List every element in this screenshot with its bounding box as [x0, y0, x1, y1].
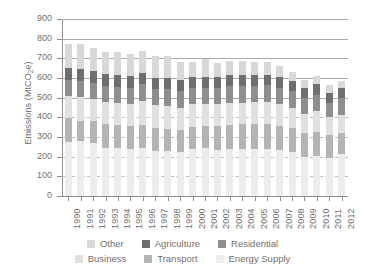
x-axis-tick-label: 1998: [172, 208, 182, 229]
legend-item-energy-supply[interactable]: Energy Supply: [216, 253, 291, 264]
x-axis-tick-mark: [280, 197, 281, 201]
x-axis-tick-mark: [193, 197, 194, 201]
x-axis-tick-label: 1993: [110, 208, 120, 229]
bar-segment-energy-supply: [251, 149, 258, 196]
y-axis-tick-mark: [57, 58, 62, 59]
bar-2008[interactable]: [289, 72, 296, 196]
bar-1992[interactable]: [90, 48, 97, 196]
bar-2011[interactable]: [326, 85, 333, 196]
x-axis-tick-label: 2005: [259, 208, 269, 229]
bar-segment-transport: [301, 133, 308, 156]
y-axis-tick-mark: [57, 78, 62, 79]
bar-segment-business: [301, 114, 308, 134]
bar-2000[interactable]: [189, 62, 196, 196]
legend-label: Agriculture: [155, 238, 200, 249]
bar-segment-agriculture: [326, 93, 333, 103]
bar-segment-residential: [90, 83, 97, 99]
legend-item-transport[interactable]: Transport: [144, 253, 197, 264]
bar-segment-transport: [239, 124, 246, 149]
x-axis-tick-mark: [292, 197, 293, 201]
legend-item-other[interactable]: Other: [87, 238, 124, 249]
bar-segment-other: [326, 85, 333, 92]
bar-1993[interactable]: [102, 52, 109, 196]
bar-segment-other: [338, 81, 345, 88]
bar-segment-other: [102, 52, 109, 74]
bar-segment-business: [276, 104, 283, 126]
legend-swatch-icon: [218, 240, 226, 248]
bar-segment-energy-supply: [164, 151, 171, 196]
bar-segment-business: [177, 108, 184, 130]
x-axis-tick-mark: [168, 197, 169, 201]
bar-segment-residential: [326, 103, 333, 117]
bar-segment-energy-supply: [177, 152, 184, 196]
bar-segment-residential: [226, 86, 233, 103]
bar-segment-other: [239, 61, 246, 76]
bar-2003[interactable]: [226, 61, 233, 196]
legend-item-residential[interactable]: Residential: [218, 238, 278, 249]
bar-2009[interactable]: [301, 80, 308, 196]
bar-2010[interactable]: [313, 76, 320, 196]
bar-2001[interactable]: [202, 59, 209, 196]
bar-1990[interactable]: [65, 44, 72, 196]
bar-segment-agriculture: [102, 74, 109, 86]
x-axis-tick-mark: [155, 197, 156, 201]
bar-segment-agriculture: [289, 81, 296, 91]
bar-segment-energy-supply: [326, 158, 333, 196]
bar-segment-other: [164, 56, 171, 79]
bar-2007[interactable]: [276, 66, 283, 196]
bar-segment-energy-supply: [152, 151, 159, 196]
bar-segment-agriculture: [226, 75, 233, 86]
x-axis-tick-label: 1997: [159, 208, 169, 229]
x-axis-tick-mark: [267, 197, 268, 201]
x-axis-tick-label: 2000: [197, 208, 207, 229]
bar-segment-other: [202, 59, 209, 77]
emissions-stacked-bar-chart: Emissions (MtCO2e) OtherAgricultureResid…: [0, 0, 365, 279]
bar-segment-transport: [326, 135, 333, 158]
x-axis-tick-label: 1994: [122, 208, 132, 229]
bar-1998[interactable]: [164, 56, 171, 196]
bar-2012[interactable]: [338, 81, 345, 196]
bar-segment-transport: [214, 126, 221, 150]
bar-1994[interactable]: [114, 52, 121, 196]
bar-segment-agriculture: [338, 88, 345, 98]
bar-segment-agriculture: [114, 75, 121, 87]
bar-1996[interactable]: [139, 51, 146, 196]
bar-segment-energy-supply: [264, 149, 271, 196]
legend-swatch-icon: [87, 240, 95, 248]
x-axis-tick-mark: [81, 197, 82, 201]
bar-segment-energy-supply: [313, 156, 320, 197]
bar-1999[interactable]: [177, 62, 184, 196]
bar-segment-business: [189, 104, 196, 126]
bar-segment-energy-supply: [239, 149, 246, 196]
x-axis-tick-mark: [304, 197, 305, 201]
bar-segment-residential: [313, 95, 320, 112]
x-axis-tick-label: 2002: [221, 208, 231, 229]
bar-segment-energy-supply: [289, 152, 296, 196]
bar-segment-transport: [114, 125, 121, 148]
bar-segment-energy-supply: [276, 150, 283, 196]
x-axis-tick-mark: [242, 197, 243, 201]
bar-segment-business: [326, 117, 333, 135]
bar-segment-business: [77, 97, 84, 121]
bar-segment-other: [264, 62, 271, 75]
bar-segment-energy-supply: [202, 148, 209, 196]
bar-1997[interactable]: [152, 56, 159, 196]
y-axis-tick-label: 500: [22, 93, 52, 102]
x-axis-tick-label: 2012: [346, 208, 356, 229]
bar-segment-business: [338, 115, 345, 133]
bar-1995[interactable]: [127, 54, 134, 196]
x-axis-tick-mark: [130, 197, 131, 201]
bar-segment-transport: [152, 128, 159, 151]
legend-item-agriculture[interactable]: Agriculture: [142, 238, 200, 249]
bar-1991[interactable]: [77, 44, 84, 196]
x-axis-tick-mark: [217, 197, 218, 201]
bar-2005[interactable]: [251, 62, 258, 196]
bar-2002[interactable]: [214, 63, 221, 196]
bar-2006[interactable]: [264, 62, 271, 196]
legend-label: Transport: [157, 253, 197, 264]
bar-segment-residential: [276, 88, 283, 104]
bar-segment-residential: [65, 80, 72, 96]
bar-2004[interactable]: [239, 61, 246, 196]
bar-segment-transport: [251, 124, 258, 149]
legend-item-business[interactable]: Business: [75, 253, 127, 264]
